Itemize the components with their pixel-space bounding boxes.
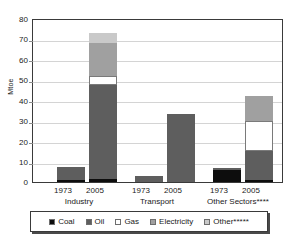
y-tick-label-0: 0 xyxy=(6,179,28,187)
bar-segment-oil xyxy=(57,167,85,180)
legend-swatch-icon xyxy=(115,219,121,225)
x-year-label-other-2005: 2005 xyxy=(236,186,266,195)
x-group-label-industry: Industry xyxy=(44,197,114,206)
legend-label: Other***** xyxy=(213,217,249,226)
x-year-label-other-1973: 1973 xyxy=(204,186,234,195)
bar-transport-2005 xyxy=(167,114,195,182)
y-tick-label-20: 20 xyxy=(6,139,28,147)
bar-segment-other xyxy=(89,33,117,42)
bar-segment-oil xyxy=(167,114,195,182)
x-group-label-transport: Transport xyxy=(122,197,192,206)
bar-segment-oil xyxy=(89,85,117,179)
y-tick-label-50: 50 xyxy=(6,77,28,85)
bar-segment-coal xyxy=(57,180,85,182)
y-tick-label-60: 60 xyxy=(6,57,28,65)
bar-segment-electricity xyxy=(245,96,273,121)
bar-segment-oil xyxy=(135,176,163,182)
x-year-label-industry-1973: 1973 xyxy=(48,186,78,195)
legend: CoalOilGasElectricityOther***** xyxy=(30,211,268,232)
legend-label: Gas xyxy=(124,217,139,226)
bar-chart: Mtoe 80 70 60 50 40 30 20 10 0 1973 2005… xyxy=(0,0,296,245)
legend-label: Oil xyxy=(95,217,105,226)
bar-industry-2005 xyxy=(89,33,117,182)
x-year-label-industry-2005: 2005 xyxy=(80,186,110,195)
legend-item-oil: Oil xyxy=(86,217,105,226)
legend-label: Electricity xyxy=(159,217,193,226)
x-year-label-transport-2005: 2005 xyxy=(158,186,188,195)
bar-segment-coal xyxy=(213,170,241,182)
y-tick-label-70: 70 xyxy=(6,36,28,44)
bar-segment-oil xyxy=(245,151,273,180)
legend-item-electricity: Electricity xyxy=(150,217,193,226)
legend-item-gas: Gas xyxy=(115,217,139,226)
bar-other-2005 xyxy=(245,96,273,182)
legend-label: Coal xyxy=(58,217,74,226)
legend-swatch-icon xyxy=(150,219,156,225)
legend-swatch-icon xyxy=(86,219,92,225)
legend-item-other: Other***** xyxy=(204,217,249,226)
legend-swatch-icon xyxy=(204,219,210,225)
bar-transport-1973 xyxy=(135,176,163,182)
bar-segment-coal xyxy=(245,180,273,182)
bars-layer xyxy=(33,20,282,182)
y-tick-label-80: 80 xyxy=(6,16,28,24)
legend-swatch-icon xyxy=(49,219,55,225)
plot-area xyxy=(32,19,283,183)
legend-item-coal: Coal xyxy=(49,217,74,226)
y-tick-label-10: 10 xyxy=(6,159,28,167)
x-group-label-other: Other Sectors**** xyxy=(190,197,286,206)
bar-segment-electricity xyxy=(89,43,117,77)
x-year-label-transport-1973: 1973 xyxy=(126,186,156,195)
bar-segment-coal xyxy=(89,179,117,182)
bar-segment-gas xyxy=(89,76,117,84)
bar-other-1973 xyxy=(213,168,241,182)
bar-segment-gas xyxy=(245,121,273,152)
y-tick-label-40: 40 xyxy=(6,98,28,106)
bar-industry-1973 xyxy=(57,167,85,182)
y-tick-label-30: 30 xyxy=(6,118,28,126)
